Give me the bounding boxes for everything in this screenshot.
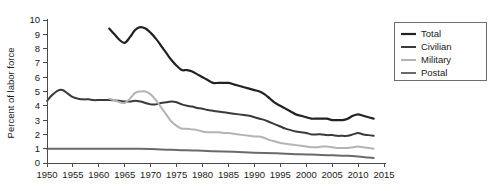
x-tick-label: 1955 bbox=[62, 169, 83, 180]
y-tick-label: 8 bbox=[35, 43, 40, 54]
series-line-postal bbox=[47, 149, 374, 158]
y-tick-label: 1 bbox=[35, 143, 40, 154]
x-tick-label: 1985 bbox=[218, 169, 239, 180]
x-tick-label: 2015 bbox=[373, 169, 394, 180]
x-tick-label: 1970 bbox=[140, 169, 161, 180]
x-tick-label: 1950 bbox=[36, 169, 57, 180]
x-tick-label: 2005 bbox=[322, 169, 343, 180]
axis-layer bbox=[43, 19, 386, 167]
legend-label-civilian: Civilian bbox=[421, 41, 452, 52]
x-tick-label: 1975 bbox=[166, 169, 187, 180]
y-tick-label: 7 bbox=[35, 57, 40, 68]
series-line-civilian bbox=[47, 90, 374, 136]
x-tick-label: 2010 bbox=[348, 169, 369, 180]
chart-legend: TotalCivilianMilitaryPostal bbox=[394, 22, 486, 80]
x-tick-label: 1995 bbox=[270, 169, 291, 180]
x-tick-label: 2000 bbox=[296, 169, 317, 180]
y-axis-title: Percent of labor force bbox=[5, 48, 16, 139]
x-tick-label: 1990 bbox=[244, 169, 265, 180]
y-tick-label: 9 bbox=[35, 29, 40, 40]
y-tick-label: 6 bbox=[35, 72, 40, 83]
legend-label-postal: Postal bbox=[421, 67, 447, 78]
x-tick-label: 1960 bbox=[88, 169, 109, 180]
plot-area: 0123456789101950195519601965197019751980… bbox=[29, 14, 394, 180]
legend-label-total: Total bbox=[421, 28, 441, 39]
series-layer bbox=[47, 27, 374, 158]
y-tick-label: 10 bbox=[29, 14, 40, 25]
legend-label-military: Military bbox=[421, 54, 451, 65]
y-tick-label: 5 bbox=[35, 86, 40, 97]
x-tick-label: 1980 bbox=[192, 169, 213, 180]
y-tick-label: 4 bbox=[35, 100, 40, 111]
y-tick-label: 2 bbox=[35, 129, 40, 140]
chart-container: 0123456789101950195519601965197019751980… bbox=[0, 0, 496, 191]
y-tick-label: 3 bbox=[35, 115, 40, 126]
y-tick-label: 0 bbox=[35, 157, 40, 168]
series-line-total bbox=[109, 27, 373, 120]
x-tick-label: 1965 bbox=[114, 169, 135, 180]
line-chart: 0123456789101950195519601965197019751980… bbox=[0, 0, 496, 191]
